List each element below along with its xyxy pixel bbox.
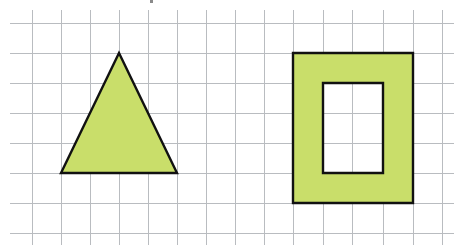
grid-figure [0, 0, 454, 245]
shapes-layer [61, 53, 413, 203]
